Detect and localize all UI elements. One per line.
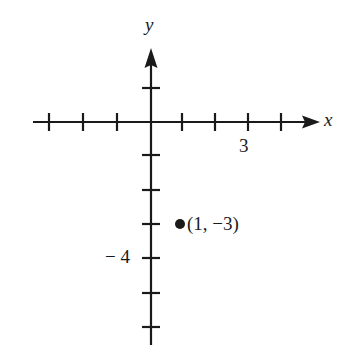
x-tick-label-3: 3 [239,136,249,155]
y-tick-label-negative-4: − 4 [105,247,130,266]
x-axis-label: x [324,110,332,129]
coordinate-plane-svg [0,0,340,358]
data-point-marker [175,219,185,229]
coordinate-plane-figure: y x 3 − 4 (1, −3) [0,0,340,358]
data-point-label: (1, −3) [187,214,239,233]
y-axis-arrowhead [145,48,158,68]
y-axis-label: y [145,15,153,34]
